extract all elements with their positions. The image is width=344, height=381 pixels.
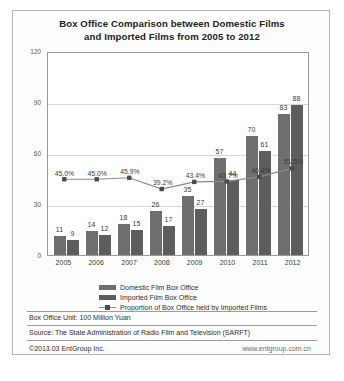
x-axis-labels: 20052006200720082009201020112012 [47,259,309,271]
legend-label-domestic: Domestic Film Box Office [120,284,198,291]
y-tick-120: 120 [25,48,41,55]
legend-swatch-proportion [99,305,116,311]
x-tick-label: 2007 [121,259,137,271]
proportion-value-label: 39.2% [153,179,172,186]
plot-area: 120 90 60 30 0 1191412181526173527574470… [13,11,331,271]
x-tick-label: 2009 [187,259,203,271]
divider-bottom [27,340,317,341]
legend-swatch-imported [99,295,116,300]
footnote-copyright: ©2013.03 EntGroup Inc. [29,345,105,352]
footnote-unit: Box Office Unit: 100 Million Yuan [29,314,131,321]
proportion-value-label: 51.5% [284,158,303,165]
proportion-line [48,53,308,255]
divider-top [27,311,317,312]
legend-swatch-domestic [99,285,116,290]
divider-middle [27,325,317,326]
x-tick-label: 2005 [56,259,72,271]
legend-item-domestic: Domestic Film Box Office [99,283,329,292]
x-tick-label: 2012 [285,259,301,271]
y-tick-90: 90 [25,99,41,106]
plot-frame: 1191412181526173527574470618388 45.0%45.… [47,52,309,256]
x-tick-label: 2010 [220,259,236,271]
x-tick-label: 2011 [252,259,267,271]
proportion-value-label: 46.4% [251,167,270,174]
footnote-website[interactable]: www.entgroup.com.cn [242,345,311,352]
x-tick-label: 2008 [154,259,170,271]
proportion-value-label: 45.0% [55,170,74,177]
proportion-value-label: 45.9% [120,168,139,175]
y-tick-30: 30 [25,201,41,208]
footnote-source: Source: The State Administration of Radi… [29,329,250,336]
y-tick-0: 0 [25,252,41,259]
chart-card: Box Office Comparison between Domestic F… [12,10,330,355]
proportion-value-label: 45.0% [87,170,106,177]
x-tick-label: 2006 [88,259,104,271]
legend-item-imported: Imported Film Box Office [99,293,329,302]
legend-label-proportion: Proportion of Box Office held by Importe… [120,304,267,311]
proportion-value-label: 43.7% [218,172,237,179]
y-tick-60: 60 [25,150,41,157]
legend-label-imported: Imported Film Box Office [120,294,197,301]
proportion-value-label: 43.4% [186,172,205,179]
chart-legend: Domestic Film Box Office Imported Film B… [99,283,329,313]
